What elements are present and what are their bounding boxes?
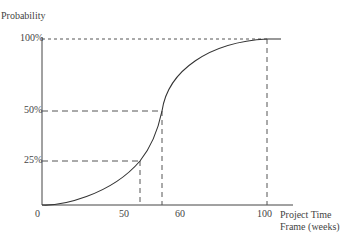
y-tick-100: 100%	[20, 32, 43, 43]
x-tick-100: 100	[257, 208, 272, 219]
y-axis-title: Probability	[1, 10, 45, 21]
probability-chart	[0, 0, 348, 239]
y-tick-25: 25%	[24, 154, 42, 165]
x-axis-title-line1: Project Time	[280, 209, 331, 220]
x-tick-0: 0	[35, 208, 40, 219]
x-axis-title-line2: Frame (weeks)	[280, 221, 340, 232]
x-tick-50: 50	[119, 208, 129, 219]
y-tick-50: 50%	[24, 104, 42, 115]
reference-lines	[42, 39, 267, 205]
x-tick-60: 60	[175, 208, 185, 219]
